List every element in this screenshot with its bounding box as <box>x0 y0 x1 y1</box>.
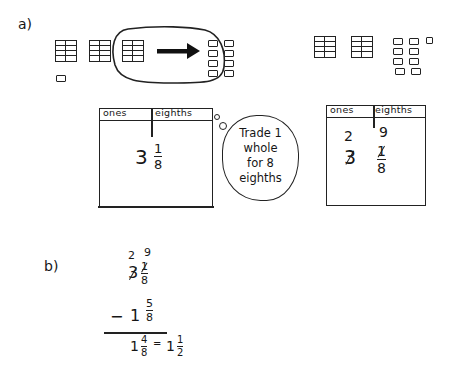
minuend-fraction: 18 <box>141 261 148 286</box>
whole-flat <box>55 40 77 62</box>
header-ones: ones <box>103 107 127 118</box>
denominator: 8 <box>154 158 162 171</box>
subtrahend-whole: 1 <box>130 306 140 325</box>
header-ones: ones <box>330 104 354 115</box>
eighth-piece <box>409 58 419 65</box>
bubble-line: Trade 1 <box>223 126 298 141</box>
numerator: 4 <box>141 335 147 345</box>
arrow-right-icon <box>155 40 205 62</box>
new-ones-value: 2 <box>344 128 353 144</box>
eighth-piece <box>409 38 419 45</box>
denominator: 2 <box>177 348 183 358</box>
denominator: 8 <box>141 275 148 286</box>
result-fraction: 48 <box>141 335 147 358</box>
part-b-label: b) <box>44 258 58 274</box>
place-value-table-after: ones eighths 2 9 3 18 <box>326 105 426 206</box>
struck-digit: 3 <box>344 146 356 168</box>
eighth-piece <box>393 58 403 65</box>
column-divider <box>373 106 375 128</box>
whole-flat <box>89 40 111 62</box>
eighth-piece <box>224 70 234 77</box>
numerator: 5 <box>146 298 153 309</box>
denominator: 8 <box>146 312 153 323</box>
numerator: 1 <box>177 335 183 345</box>
denominator: 8 <box>377 161 386 175</box>
numerator: 1 <box>154 142 162 155</box>
table-bottom-line <box>98 206 214 208</box>
minuend-whole: 3 <box>128 263 138 282</box>
bubble-line: for 8 <box>223 156 298 171</box>
old-ones-value-struck: 3 <box>344 146 356 168</box>
eighth-piece <box>409 48 419 55</box>
eighth-piece <box>395 68 405 75</box>
eighth-piece <box>411 68 421 75</box>
regroup-numerator: 9 <box>144 246 151 259</box>
header-eighths: eighths <box>375 104 412 115</box>
eighth-piece <box>224 60 234 67</box>
sum-line <box>104 332 167 334</box>
subtrahend-fraction: 58 <box>146 298 153 323</box>
old-eighths-value: 18 <box>377 144 386 175</box>
eighth-piece <box>224 50 234 57</box>
header-eighths: eighths <box>155 107 192 118</box>
eighth-piece <box>208 40 218 47</box>
equals-sign: = <box>153 338 161 349</box>
eighth-piece <box>208 70 218 77</box>
struck-numerator: 1 <box>141 261 148 272</box>
table-header: ones eighths <box>327 106 425 118</box>
regroup-whole: 2 <box>128 249 135 262</box>
new-eighths-value: 9 <box>379 124 388 140</box>
struck-digit: 3 <box>128 263 138 282</box>
table-header: ones eighths <box>100 109 212 121</box>
eighth-piece <box>224 40 234 47</box>
eighths-value: 18 <box>154 142 162 171</box>
bubble-dot <box>214 114 220 120</box>
part-a-label: a) <box>18 16 32 32</box>
thought-bubble: Trade 1 whole for 8 eighths <box>222 115 299 201</box>
bubble-line: whole <box>223 141 298 156</box>
simplified-fraction: 12 <box>177 335 183 358</box>
eighth-piece <box>426 37 433 44</box>
bubble-line: eighths <box>223 171 298 186</box>
eighth-piece <box>393 38 403 45</box>
column-divider <box>151 109 153 137</box>
eighth-piece <box>56 75 66 82</box>
denominator: 8 <box>141 348 147 358</box>
bubble-text: Trade 1 whole for 8 eighths <box>223 126 298 186</box>
whole-flat <box>351 36 373 58</box>
ones-value: 3 <box>135 145 148 169</box>
struck-numerator: 1 <box>377 144 386 158</box>
minus-sign: − <box>110 307 123 326</box>
eighth-piece <box>208 60 218 67</box>
eighth-piece <box>208 50 218 57</box>
whole-flat <box>314 36 336 58</box>
place-value-table-before: ones eighths 3 18 <box>99 108 213 207</box>
result-whole: 1 <box>130 338 139 354</box>
eighth-piece <box>393 48 403 55</box>
simplified-whole: 1 <box>166 338 175 354</box>
